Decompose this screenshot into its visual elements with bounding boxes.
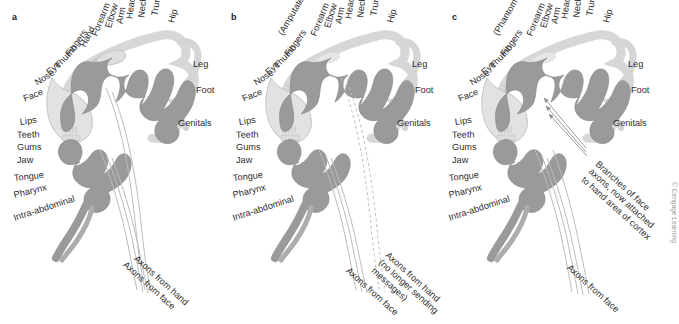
label-jaw: Jaw — [452, 156, 468, 166]
panel-a-normal: a Intra-abdominal Pharynx Tongue Jaw Gum… — [0, 0, 226, 324]
label-genitals: Genitals — [613, 119, 647, 129]
panel-letter-c: c — [452, 12, 457, 22]
panel-c-reorganized: c Intra-abdominal Pharynx Tongue Jaw Gum… — [440, 0, 679, 324]
label-teeth: Teeth — [17, 130, 40, 140]
label-leg: Leg — [628, 60, 643, 70]
panel-b-amputated: b Intra-abdominal Pharynx Tongue Jaw Gum… — [219, 0, 445, 324]
panel-letter-a: a — [12, 12, 17, 22]
panel-a-illustration — [0, 0, 226, 324]
label-leg: Leg — [193, 60, 208, 70]
label-foot: Foot — [631, 86, 649, 96]
label-foot: Foot — [196, 86, 214, 96]
label-jaw: Jaw — [236, 156, 252, 166]
cortex-ribbon — [275, 58, 414, 260]
label-genitals: Genitals — [397, 119, 431, 129]
label-teeth: Teeth — [452, 130, 475, 140]
panel-c-illustration — [440, 0, 679, 324]
cortex-ribbon — [56, 58, 195, 260]
label-jaw: Jaw — [17, 156, 33, 166]
label-gums: Gums — [452, 143, 477, 153]
label-genitals: Genitals — [178, 119, 212, 129]
somatosensory-homunculus-figure: a Intra-abdominal Pharynx Tongue Jaw Gum… — [0, 0, 679, 324]
panel-letter-b: b — [231, 12, 237, 22]
label-gums: Gums — [17, 143, 42, 153]
label-foot: Foot — [415, 86, 433, 96]
label-gums: Gums — [236, 143, 261, 153]
cortex-ribbon — [491, 58, 630, 260]
label-teeth: Teeth — [236, 130, 259, 140]
label-leg: Leg — [412, 60, 427, 70]
copyright-notice: © Cengage Learning — [671, 182, 678, 243]
